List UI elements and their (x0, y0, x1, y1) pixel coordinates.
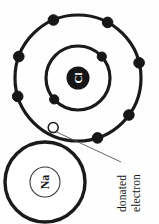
electron-outer-7 (13, 51, 24, 62)
electron-outer-1 (48, 15, 59, 26)
diagram-canvas: Cl Na donated electron (0, 0, 159, 224)
donated-electron[interactable] (48, 123, 58, 133)
callout-label-line-2: electron (130, 174, 142, 212)
electron-inner-2 (50, 95, 59, 104)
electron-outer-2 (102, 17, 113, 28)
electron-outer-5 (92, 133, 103, 144)
callout-label-line-1: donated (116, 175, 128, 212)
electron-inner-1 (97, 52, 106, 61)
sodium-atom: Na (5, 142, 85, 222)
sodium-nucleus-label: Na (38, 175, 52, 190)
chlorine-atom: Cl (12, 15, 144, 144)
chlorine-nucleus-label: Cl (72, 73, 84, 84)
electron-outer-3 (134, 58, 145, 69)
electron-outer-4 (124, 110, 135, 121)
bohr-model-diagram: Cl Na donated electron (0, 0, 159, 224)
electron-outer-6 (12, 91, 23, 102)
